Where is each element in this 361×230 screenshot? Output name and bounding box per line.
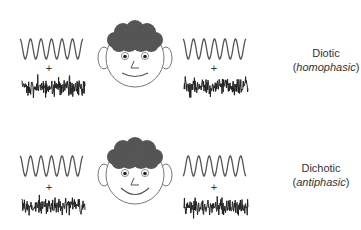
noise-left-dichotic xyxy=(22,195,85,215)
noise-left-diotic xyxy=(22,74,85,97)
plus-left-dichotic: + xyxy=(46,181,52,193)
label-subtitle: (antiphasic) xyxy=(271,175,361,189)
label-diotic: Diotic (homophasic) xyxy=(276,46,361,74)
hair-icon xyxy=(107,137,163,169)
row-dichotic: + + xyxy=(20,137,248,218)
label-title: Diotic xyxy=(276,46,361,60)
tone-left-dichotic xyxy=(20,156,83,176)
noise-right-diotic xyxy=(184,77,248,98)
plus-right-diotic: + xyxy=(211,62,217,74)
tone-right-diotic xyxy=(183,39,246,59)
label-subtitle: (homophasic) xyxy=(276,60,361,74)
tone-right-dichotic xyxy=(183,156,246,176)
tone-left-diotic xyxy=(20,39,83,59)
hair-icon xyxy=(107,20,163,52)
head-dichotic xyxy=(98,137,172,204)
noise-right-dichotic xyxy=(184,196,248,218)
label-dichotic: Dichotic (antiphasic) xyxy=(271,161,361,189)
binaural-diagram: + + + + xyxy=(0,0,361,230)
label-title: Dichotic xyxy=(271,161,361,175)
row-diotic: + + xyxy=(20,20,248,98)
plus-right-dichotic: + xyxy=(211,181,217,193)
plus-left-diotic: + xyxy=(46,62,52,74)
head-diotic xyxy=(98,20,172,87)
